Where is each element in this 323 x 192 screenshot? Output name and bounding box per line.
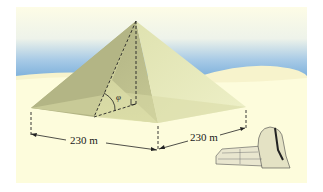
pyramid-diagram: φ 230 m 230 m xyxy=(0,0,323,192)
dimension-label-right: 230 m xyxy=(190,131,218,143)
dimension-label-left: 230 m xyxy=(70,134,98,146)
angle-phi-label: φ xyxy=(116,92,121,102)
